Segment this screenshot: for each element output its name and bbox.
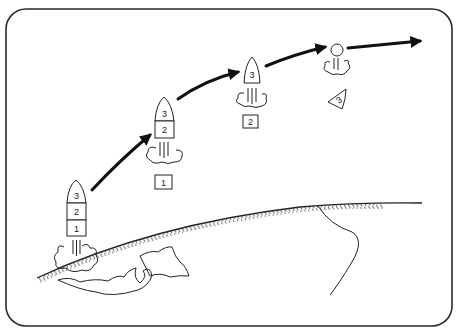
diagram-frame [6,9,452,326]
stage-label: 2 [248,117,253,127]
rocket-staging-diagram: 3 2 1 3 2 1 3 2 3 [0,0,457,332]
stage-label: 3 [74,191,79,201]
stage-label: 1 [161,178,166,188]
stage-label: 1 [74,224,79,234]
stage-label: 3 [162,109,167,119]
payload [331,44,343,56]
stage-label: 3 [249,70,254,80]
stage-label: 2 [162,125,167,135]
diagram-canvas: 3 2 1 3 2 1 3 2 3 [0,0,457,332]
stage-label: 2 [74,207,79,217]
